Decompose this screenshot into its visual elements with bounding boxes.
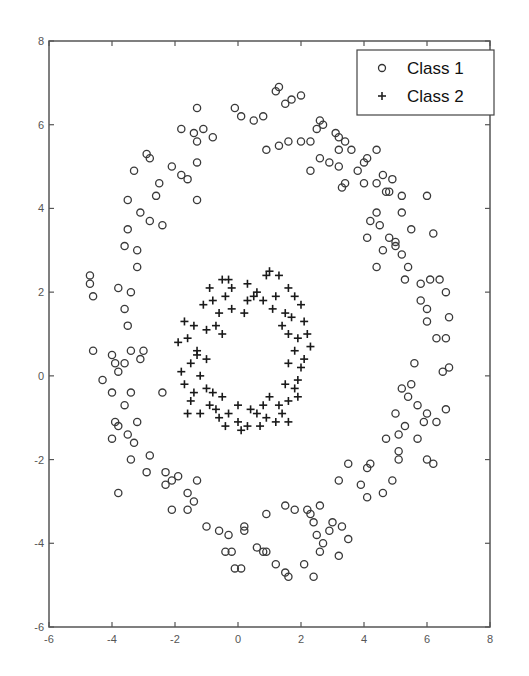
y-tick-label: -6 [34, 621, 44, 633]
y-tick-label: 6 [38, 119, 44, 131]
x-tick-label: -2 [170, 633, 180, 645]
x-tick-label: 8 [487, 633, 493, 645]
x-tick-label: 4 [361, 633, 367, 645]
legend-label-class-2: Class 2 [407, 87, 464, 106]
scatter-chart: -6-4-202468 -6-4-202468 Class 1 Class 2 [0, 0, 529, 676]
y-tick-label: -2 [34, 454, 44, 466]
x-tick-label: -6 [44, 633, 54, 645]
y-tick-label: 8 [38, 35, 44, 47]
y-tick-label: 2 [38, 286, 44, 298]
x-tick-label: 2 [298, 633, 304, 645]
x-tick-label: 0 [235, 633, 241, 645]
x-tick-label: -4 [107, 633, 117, 645]
x-tick-label: 6 [424, 633, 430, 645]
y-tick-label: -4 [34, 537, 44, 549]
y-tick-label: 0 [38, 370, 44, 382]
legend-label-class-1: Class 1 [407, 59, 464, 78]
plot-frame [49, 41, 490, 627]
legend: Class 1 Class 2 [357, 50, 494, 115]
y-tick-label: 4 [38, 202, 44, 214]
